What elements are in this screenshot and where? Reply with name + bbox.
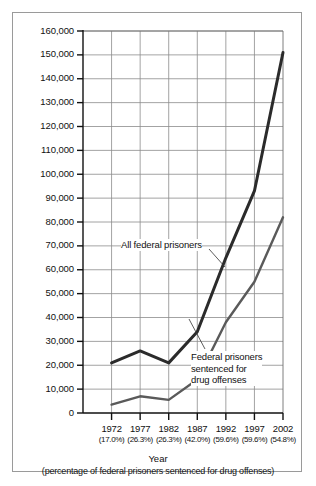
y-tick-label: 30,000 — [46, 335, 74, 346]
figure-container: 160,000150,000140,000130,000120,000110,0… — [0, 0, 316, 486]
x-tick-percentage-label: (54.8%) — [259, 435, 307, 444]
y-tick-label: 110,000 — [41, 144, 74, 155]
y-tick-label: 0 — [69, 407, 74, 418]
y-tick-label: 140,000 — [40, 72, 74, 83]
y-tick-label: 90,000 — [46, 192, 74, 203]
annotation-line: drug offenses — [191, 374, 262, 386]
y-axis — [77, 30, 83, 413]
horizontal-gridlines — [83, 31, 283, 389]
y-tick-label: 150,000 — [40, 48, 74, 59]
x-axis-subtitle: (percentage of federal prisoners sentenc… — [13, 466, 303, 476]
annotation-line: sentenced for — [191, 363, 262, 375]
y-tick-label: 160,000 — [40, 25, 74, 36]
y-tick-label: 60,000 — [46, 263, 74, 274]
annotation-line: Federal prisoners — [191, 351, 262, 363]
x-tick-year-label: 2002 — [259, 423, 307, 434]
annotation-line: All federal prisoners — [121, 239, 202, 251]
y-tick-label: 80,000 — [46, 216, 74, 227]
y-tick-label: 20,000 — [46, 359, 74, 370]
y-tick-label: 70,000 — [46, 239, 74, 250]
annotation-drug-offenses: Federal prisonerssentenced fordrug offen… — [191, 351, 262, 386]
y-tick-label: 100,000 — [40, 168, 74, 179]
x-axis — [83, 413, 283, 420]
annotation-all-federal-prisoners: All federal prisoners — [121, 239, 202, 251]
y-tick-label: 130,000 — [40, 96, 74, 107]
y-tick-label: 40,000 — [46, 311, 74, 322]
x-axis-title: Year — [13, 453, 303, 464]
y-tick-label: 120,000 — [40, 120, 74, 131]
chart-frame: 160,000150,000140,000130,000120,000110,0… — [12, 12, 302, 472]
y-tick-label: 50,000 — [46, 287, 74, 298]
y-tick-label: 10,000 — [46, 383, 74, 394]
